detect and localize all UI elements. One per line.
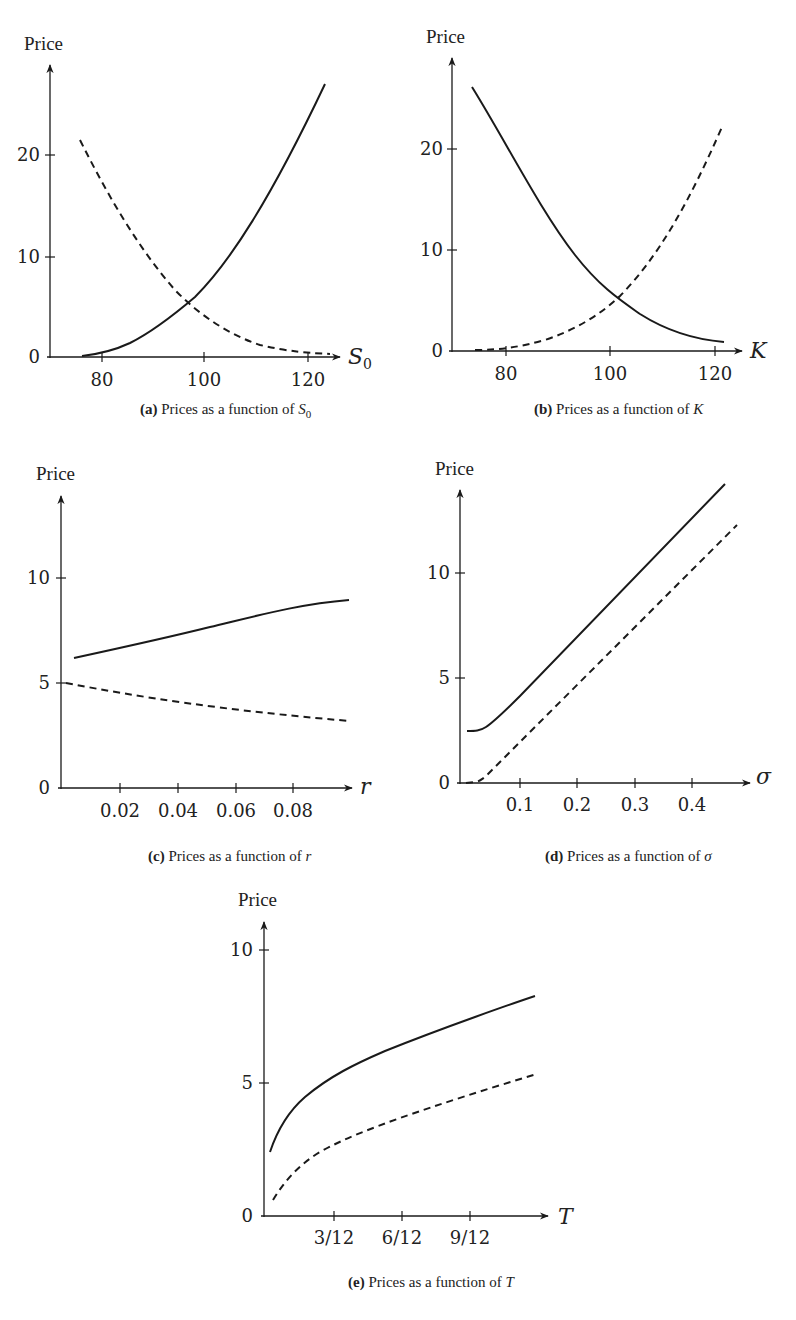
y-ticks: 0 10 20 (17, 144, 55, 367)
x-tick-label: 120 (291, 369, 325, 390)
caption-e: (e) Prices as a function of T (348, 1274, 515, 1291)
put-price-curve (475, 127, 722, 350)
put-price-curve (80, 140, 330, 354)
x-tick-label: 0.08 (273, 800, 313, 821)
x-tick-label: 120 (698, 363, 732, 384)
y-axis-label: Price (426, 26, 465, 47)
call-price-curve (82, 84, 325, 356)
x-tick-label: 0.4 (678, 794, 707, 815)
panel-a: Price 0 10 20 80 100 120 S0 (a) Prices a… (17, 33, 372, 420)
y-axis-label: Price (435, 458, 474, 479)
put-price-curve (466, 525, 737, 783)
x-axis-variable: S0 (348, 344, 372, 372)
y-tick-label: 5 (242, 1072, 253, 1093)
call-price-curve (74, 600, 349, 658)
y-tick-label: 10 (427, 562, 450, 583)
x-tick-label: 0.1 (506, 794, 535, 815)
x-tick-label: 100 (187, 369, 221, 390)
y-tick-label: 10 (27, 567, 50, 588)
y-tick-label: 10 (17, 246, 40, 267)
panel-e: Price 0 5 10 3/12 6/12 9/12 T (e) Prices… (230, 889, 575, 1291)
y-tick-label: 10 (230, 939, 253, 960)
x-tick-label: 9/12 (450, 1227, 490, 1248)
y-tick-label: 5 (39, 672, 50, 693)
x-axis-variable: r (360, 774, 372, 799)
y-tick-label: 5 (439, 667, 450, 688)
y-ticks: 0 5 10 (27, 567, 66, 798)
y-tick-label: 0 (242, 1205, 253, 1226)
x-axis-variable: K (749, 338, 768, 363)
put-price-curve (273, 1074, 537, 1200)
call-price-curve (467, 484, 725, 731)
call-price-curve (472, 87, 724, 342)
x-tick-label: 100 (593, 363, 627, 384)
y-tick-label: 0 (29, 346, 40, 367)
y-ticks: 0 5 10 (230, 939, 269, 1226)
panel-c: Price 0 5 10 0.02 0.04 0.06 0.08 r (c) P… (27, 463, 372, 865)
panel-d: Price 0 5 10 0.1 0.2 0.3 0.4 σ (d) Price… (427, 458, 772, 865)
put-price-curve (66, 683, 350, 721)
x-axis-variable: σ (756, 764, 772, 789)
x-tick-label: 3/12 (314, 1227, 354, 1248)
panel-b: Price 0 10 20 80 100 120 K (b) Prices as… (420, 26, 768, 418)
y-axis-label: Price (24, 33, 63, 54)
caption-d: (d) Prices as a function of σ (545, 848, 712, 865)
x-ticks: 80 100 120 (91, 352, 326, 390)
x-tick-label: 0.3 (621, 794, 650, 815)
figure: Price 0 10 20 80 100 120 S0 (a) Prices a… (0, 0, 796, 1320)
x-tick-label: 0.06 (216, 800, 256, 821)
x-axis-variable: T (558, 1204, 575, 1229)
y-axis-label: Price (36, 463, 75, 484)
x-ticks: 0.02 0.04 0.06 0.08 (100, 783, 313, 821)
x-ticks: 80 100 120 (495, 346, 733, 384)
y-tick-label: 20 (420, 138, 443, 159)
x-tick-label: 6/12 (382, 1227, 422, 1248)
x-tick-label: 80 (91, 369, 114, 390)
y-tick-label: 0 (439, 772, 450, 793)
caption-b: (b) Prices as a function of K (534, 401, 704, 418)
caption-a: (a) Prices as a function of S0 (140, 401, 312, 420)
x-tick-label: 0.04 (158, 800, 198, 821)
caption-c: (c) Prices as a function of r (148, 848, 311, 865)
y-ticks: 0 5 10 (427, 562, 465, 793)
y-tick-label: 0 (432, 340, 443, 361)
call-price-curve (270, 996, 535, 1152)
x-tick-label: 80 (495, 363, 518, 384)
y-tick-label: 10 (420, 239, 443, 260)
y-tick-label: 0 (39, 777, 50, 798)
x-tick-label: 0.02 (100, 800, 140, 821)
y-tick-label: 20 (17, 144, 40, 165)
y-axis-label: Price (238, 889, 277, 910)
x-tick-label: 0.2 (563, 794, 592, 815)
